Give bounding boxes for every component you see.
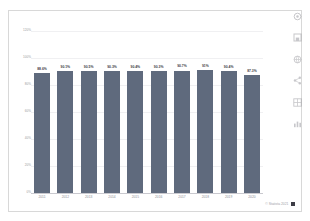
- x-axis-tick-label: 2020: [244, 195, 260, 205]
- y-axis-tick-label: 40%: [15, 137, 31, 140]
- x-axis-tick-label: 2014: [104, 195, 120, 205]
- bar-value-label: 90.3%: [107, 66, 117, 70]
- x-axis-tick-label: 2015: [127, 195, 143, 205]
- table-grid-icon[interactable]: [293, 98, 302, 107]
- bar-value-label: 90.5%: [84, 66, 94, 70]
- bar[interactable]: 88.6%: [34, 73, 50, 193]
- bar[interactable]: 90.4%: [127, 71, 143, 193]
- x-axis-tick-label: 2017: [174, 195, 190, 205]
- bar-value-label: 90.7%: [177, 65, 187, 69]
- x-axis-tick-label: 2011: [34, 195, 50, 205]
- bar-value-label: 90.3%: [154, 66, 164, 70]
- bar-value-label: 91%: [202, 65, 209, 69]
- bar[interactable]: 90.3%: [104, 71, 120, 193]
- chart-footer: © Statista 2021: [265, 202, 295, 206]
- bar[interactable]: 90.5%: [81, 71, 97, 193]
- copyright-text: © Statista 2021: [265, 202, 288, 206]
- bar-column[interactable]: 90.7%: [174, 31, 190, 193]
- y-axis-tick-label: 60%: [15, 110, 31, 113]
- y-axis-tick-label: 80%: [15, 83, 31, 86]
- bar[interactable]: 91%: [197, 70, 213, 193]
- globe-icon[interactable]: [293, 55, 302, 64]
- x-axis: 2011201220132014201520162017201820192020: [31, 195, 263, 205]
- bar-column[interactable]: 90.3%: [151, 31, 167, 193]
- x-axis-tick-label: 2018: [197, 195, 213, 205]
- bar-value-label: 90.4%: [131, 66, 141, 70]
- bar-column[interactable]: 90.4%: [221, 31, 237, 193]
- chart-toolbar[interactable]: [286, 10, 308, 130]
- bar-column[interactable]: 88.6%: [34, 31, 50, 193]
- y-axis-tick-label: 100%: [15, 56, 31, 59]
- bar[interactable]: 87.3%: [244, 75, 260, 193]
- bar-column[interactable]: 91%: [197, 31, 213, 193]
- bar-value-label: 88.6%: [37, 68, 47, 72]
- statista-square-icon: [291, 202, 295, 205]
- x-axis-tick-label: 2019: [221, 195, 237, 205]
- y-axis-tick-label: 0%: [15, 191, 31, 194]
- settings-gear-icon[interactable]: [293, 12, 302, 21]
- bar-series: 88.6%90.1%90.5%90.3%90.4%90.3%90.7%91%90…: [31, 31, 263, 193]
- bar[interactable]: 90.4%: [221, 71, 237, 193]
- bar[interactable]: 90.7%: [174, 71, 190, 193]
- bar-column[interactable]: 90.5%: [81, 31, 97, 193]
- plot-area: 0%20%40%60%80%100%120% 88.6%90.1%90.5%90…: [31, 31, 263, 193]
- y-axis-tick-label: 20%: [15, 164, 31, 167]
- bar-column[interactable]: 90.4%: [127, 31, 143, 193]
- x-axis-tick-label: 2016: [151, 195, 167, 205]
- chart-card: 0%20%40%60%80%100%120% 88.6%90.1%90.5%90…: [8, 10, 302, 212]
- y-gridline: [31, 193, 263, 194]
- x-axis-tick-label: 2013: [81, 195, 97, 205]
- bar[interactable]: 90.3%: [151, 71, 167, 193]
- chart-screenshot: 0%20%40%60%80%100%120% 88.6%90.1%90.5%90…: [0, 0, 310, 221]
- bar[interactable]: 90.1%: [57, 71, 73, 193]
- bar-value-label: 90.4%: [224, 66, 234, 70]
- bar-column[interactable]: 87.3%: [244, 31, 260, 193]
- y-axis-tick-label: 120%: [15, 29, 31, 32]
- save-disk-icon[interactable]: [293, 33, 302, 42]
- x-axis-tick-label: 2012: [57, 195, 73, 205]
- bar-column[interactable]: 90.3%: [104, 31, 120, 193]
- bar-column[interactable]: 90.1%: [57, 31, 73, 193]
- bar-chart-icon[interactable]: [293, 119, 302, 128]
- share-nodes-icon[interactable]: [293, 76, 302, 85]
- bar-value-label: 90.1%: [61, 66, 71, 70]
- bar-value-label: 87.3%: [247, 70, 257, 74]
